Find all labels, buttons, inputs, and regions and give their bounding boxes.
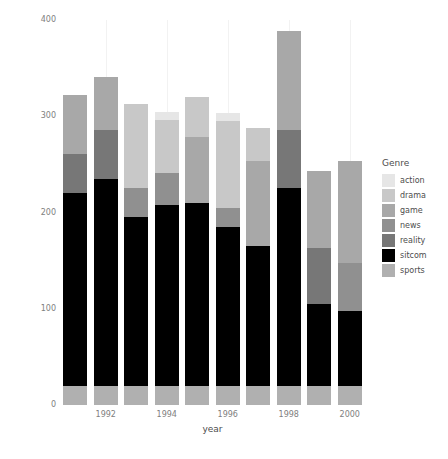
y-axis-ticks: 0100200300400 — [18, 0, 56, 459]
bar-segment-sitcom — [338, 311, 362, 386]
bar-segment-sports — [155, 386, 179, 405]
y-tick-label: 300 — [20, 111, 56, 121]
legend-item-drama[interactable]: drama — [382, 188, 448, 202]
bar-segment-sports — [246, 386, 270, 405]
bar-segment-game — [246, 161, 270, 246]
bar-1993[interactable] — [124, 20, 148, 405]
legend-item-action[interactable]: action — [382, 173, 448, 187]
bar-segment-sitcom — [155, 205, 179, 386]
bar-segment-game — [63, 95, 87, 154]
legend-item-game[interactable]: game — [382, 203, 448, 217]
bar-segment-sports — [63, 386, 87, 405]
legend-label: sports — [400, 266, 425, 275]
legend-label: reality — [400, 236, 425, 245]
bar-segment-sitcom — [216, 227, 240, 386]
bar-segment-news — [124, 188, 148, 217]
bar-1995[interactable] — [185, 20, 209, 405]
bar-1992[interactable] — [94, 20, 118, 405]
bar-segment-sitcom — [124, 217, 148, 385]
legend: Genre actiondramagamenewsrealitysitcomsp… — [382, 158, 448, 278]
bar-segment-drama — [216, 121, 240, 208]
legend-item-reality[interactable]: reality — [382, 233, 448, 247]
bar-1998[interactable] — [277, 20, 301, 405]
legend-swatch-icon — [382, 189, 395, 202]
x-tick-label: 1996 — [208, 410, 248, 419]
bar-1994[interactable] — [155, 20, 179, 405]
y-tick-label: 200 — [20, 208, 56, 218]
bar-2000[interactable] — [338, 20, 362, 405]
bar-segment-drama — [246, 128, 270, 162]
bar-segment-sports — [277, 386, 301, 405]
legend-item-sports[interactable]: sports — [382, 263, 448, 277]
bar-segment-sitcom — [63, 193, 87, 386]
bar-segment-action — [155, 112, 179, 120]
bar-1991[interactable] — [63, 20, 87, 405]
bar-segment-action — [216, 113, 240, 121]
legend-items: actiondramagamenewsrealitysitcomsports — [382, 173, 448, 277]
x-tick-label: 1992 — [86, 410, 126, 419]
legend-label: game — [400, 206, 423, 215]
chart-root: cumulative ratings points 0100200300400 … — [0, 0, 448, 459]
legend-label: action — [400, 176, 425, 185]
bar-segment-sitcom — [307, 304, 331, 386]
bar-segment-game — [185, 137, 209, 202]
bar-segment-sitcom — [94, 179, 118, 386]
bar-segment-sitcom — [277, 188, 301, 385]
bar-segment-news — [338, 263, 362, 311]
y-tick-label: 400 — [20, 15, 56, 25]
y-tick-label: 100 — [20, 304, 56, 314]
legend-item-news[interactable]: news — [382, 218, 448, 232]
legend-title: Genre — [382, 158, 448, 168]
bar-1996[interactable] — [216, 20, 240, 405]
bar-segment-game — [307, 171, 331, 248]
bar-segment-drama — [185, 97, 209, 137]
bar-segment-reality — [63, 154, 87, 193]
bar-segment-game — [94, 77, 118, 130]
bar-segment-sports — [94, 386, 118, 405]
plot-panel — [60, 20, 365, 405]
bar-segment-news — [155, 173, 179, 205]
bar-segment-reality — [307, 248, 331, 304]
legend-swatch-icon — [382, 234, 395, 247]
bar-segment-sports — [307, 386, 331, 405]
bar-segment-reality — [277, 130, 301, 189]
bar-1997[interactable] — [246, 20, 270, 405]
y-axis-title: cumulative ratings points — [2, 0, 18, 32]
legend-label: news — [400, 221, 421, 230]
x-tick-label: 1998 — [269, 410, 309, 419]
legend-swatch-icon — [382, 174, 395, 187]
bar-segment-reality — [94, 130, 118, 179]
bar-segment-drama — [124, 104, 148, 189]
bar-1999[interactable] — [307, 20, 331, 405]
legend-swatch-icon — [382, 249, 395, 262]
bar-segment-sports — [338, 386, 362, 405]
x-tick-label: 2000 — [330, 410, 370, 419]
x-axis-title: year — [60, 424, 365, 434]
bar-segment-sitcom — [185, 203, 209, 386]
bar-segment-game — [338, 161, 362, 262]
bar-segment-sports — [185, 386, 209, 405]
bar-segment-sports — [216, 386, 240, 405]
legend-label: drama — [400, 191, 426, 200]
bar-segment-game — [277, 31, 301, 130]
legend-item-sitcom[interactable]: sitcom — [382, 248, 448, 262]
legend-swatch-icon — [382, 204, 395, 217]
bar-segment-drama — [155, 120, 179, 173]
legend-swatch-icon — [382, 219, 395, 232]
bar-segment-sitcom — [246, 246, 270, 386]
legend-swatch-icon — [382, 264, 395, 277]
bar-segment-news — [216, 208, 240, 227]
bar-segment-sports — [124, 386, 148, 405]
x-tick-label: 1994 — [147, 410, 187, 419]
legend-label: sitcom — [400, 251, 427, 260]
y-tick-label: 0 — [20, 400, 56, 410]
